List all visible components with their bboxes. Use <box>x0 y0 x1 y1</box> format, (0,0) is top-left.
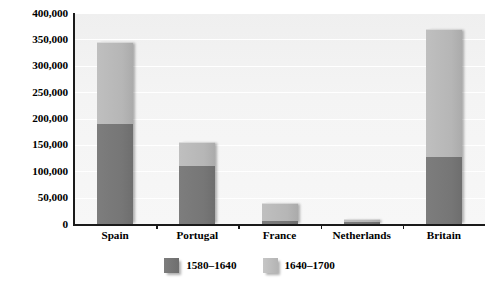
x-axis-line <box>73 224 485 226</box>
plot-area <box>74 13 485 224</box>
bar-segment-1580-1640 <box>426 157 462 224</box>
stacked-bar-chart: 400,000350,000300,000250,000200,000150,0… <box>0 0 499 290</box>
x-axis-tick <box>238 225 239 229</box>
gridline <box>74 171 485 172</box>
bar-segment-1640-1700 <box>426 29 462 157</box>
bar-segment-1640-1700 <box>97 42 133 124</box>
x-axis-tick <box>156 225 157 229</box>
gridline <box>74 145 485 146</box>
y-axis-tick-label: 150,000 <box>2 139 68 150</box>
legend-label: 1580–1640 <box>186 260 236 271</box>
bar-top-highlight <box>97 42 133 43</box>
gridline <box>74 66 485 67</box>
legend-item-1640-1700: 1640–1700 <box>263 258 335 273</box>
legend-label: 1640–1700 <box>285 260 335 271</box>
bar-top-highlight <box>344 219 380 220</box>
bar-france <box>262 203 298 224</box>
x-axis-label-britain: Britain <box>389 230 499 241</box>
legend-swatch-icon <box>263 258 278 273</box>
gridline <box>74 92 485 93</box>
y-axis-tick-label: 200,000 <box>2 113 68 124</box>
y-axis-line <box>73 13 75 225</box>
bar-britain <box>426 29 462 224</box>
gridline <box>74 198 485 199</box>
y-axis-tick-label: 300,000 <box>2 60 68 71</box>
gridline <box>74 13 485 14</box>
gridline <box>74 39 485 40</box>
bar-segment-1580-1640 <box>179 166 215 224</box>
bar-segment-1640-1700 <box>262 203 298 221</box>
y-axis-tick-label: 100,000 <box>2 166 68 177</box>
chart-legend: 1580–16401640–1700 <box>0 258 499 273</box>
y-axis-tick-label: 0 <box>2 219 68 230</box>
legend-item-1580-1640: 1580–1640 <box>164 258 236 273</box>
y-axis-tick-label: 250,000 <box>2 87 68 98</box>
x-axis-tick <box>321 225 322 229</box>
y-axis-tick-labels: 400,000350,000300,000250,000200,000150,0… <box>0 0 68 290</box>
bar-spain <box>97 42 133 224</box>
bar-portugal <box>179 142 215 224</box>
x-axis-tick <box>403 225 404 229</box>
bar-segment-1640-1700 <box>179 142 215 166</box>
bar-top-highlight <box>262 203 298 204</box>
legend-swatch-icon <box>164 258 179 273</box>
gridline <box>74 119 485 120</box>
y-axis-tick-label: 50,000 <box>2 192 68 203</box>
y-axis-tick-label: 400,000 <box>2 8 68 19</box>
bar-top-highlight <box>426 29 462 30</box>
bar-top-highlight <box>179 142 215 143</box>
y-axis-tick-label: 350,000 <box>2 34 68 45</box>
bar-segment-1580-1640 <box>97 124 133 224</box>
